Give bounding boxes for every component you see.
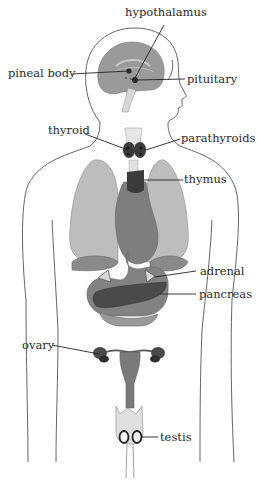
- uterus-ovaries: [93, 347, 165, 408]
- brain: [98, 42, 164, 112]
- label-adrenal: adrenal: [200, 266, 244, 278]
- testes: [116, 406, 143, 478]
- label-hypothalamus: hypothalamus: [125, 7, 207, 19]
- label-pineal-body: pineal body: [8, 68, 76, 80]
- testis-right: [133, 431, 142, 443]
- label-thyroid: thyroid: [48, 125, 90, 137]
- label-pituitary: pituitary: [187, 74, 237, 86]
- label-pancreas: pancreas: [199, 289, 252, 301]
- thymus-gland: [127, 170, 144, 193]
- label-ovary: ovary: [22, 340, 54, 352]
- label-parathyroids: parathyroids: [181, 133, 255, 145]
- testis-left: [120, 431, 129, 443]
- label-testis: testis: [160, 432, 192, 444]
- label-thymus: thymus: [184, 174, 227, 186]
